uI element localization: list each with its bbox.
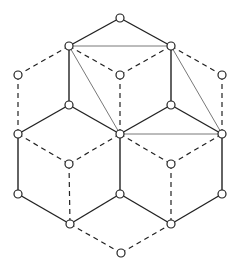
thin-edge xyxy=(69,46,120,134)
dashed-edge xyxy=(171,134,222,164)
node-circle xyxy=(116,14,124,22)
nodes xyxy=(14,14,226,257)
node-circle xyxy=(14,71,22,79)
node-circle xyxy=(66,220,74,228)
solid-edge xyxy=(120,194,171,224)
node-circle xyxy=(218,190,226,198)
solid-edge xyxy=(171,105,222,134)
solid-edge xyxy=(18,194,70,224)
dashed-edge xyxy=(69,46,120,75)
solid-edge xyxy=(18,105,69,134)
solid-edge xyxy=(69,18,120,46)
dashed-edge xyxy=(70,224,121,253)
dashed-edge xyxy=(69,164,70,224)
node-circle xyxy=(167,220,175,228)
solid-edge xyxy=(120,18,171,46)
thin-edge xyxy=(171,46,222,134)
node-circle xyxy=(65,42,73,50)
node-circle xyxy=(218,71,226,79)
node-circle xyxy=(218,130,226,138)
node-circle xyxy=(116,190,124,198)
dashed-edge xyxy=(18,134,69,164)
node-circle xyxy=(116,130,124,138)
dashed-edge xyxy=(18,46,69,75)
dashed-edge xyxy=(171,46,222,75)
node-circle xyxy=(14,190,22,198)
node-circle xyxy=(65,160,73,168)
dashed-edge xyxy=(121,224,171,253)
node-circle xyxy=(14,130,22,138)
node-circle xyxy=(65,101,73,109)
solid-edge xyxy=(171,194,222,224)
rhombic-lattice-diagram xyxy=(0,0,241,271)
dashed-edge xyxy=(69,134,120,164)
solid-edge xyxy=(69,105,120,134)
node-circle xyxy=(167,101,175,109)
solid-edge xyxy=(70,194,120,224)
node-circle xyxy=(116,71,124,79)
solid-edge xyxy=(120,105,171,134)
dashed-edge xyxy=(120,134,171,164)
dashed-edge xyxy=(120,46,171,75)
node-circle xyxy=(167,42,175,50)
node-circle xyxy=(117,249,125,257)
node-circle xyxy=(167,160,175,168)
